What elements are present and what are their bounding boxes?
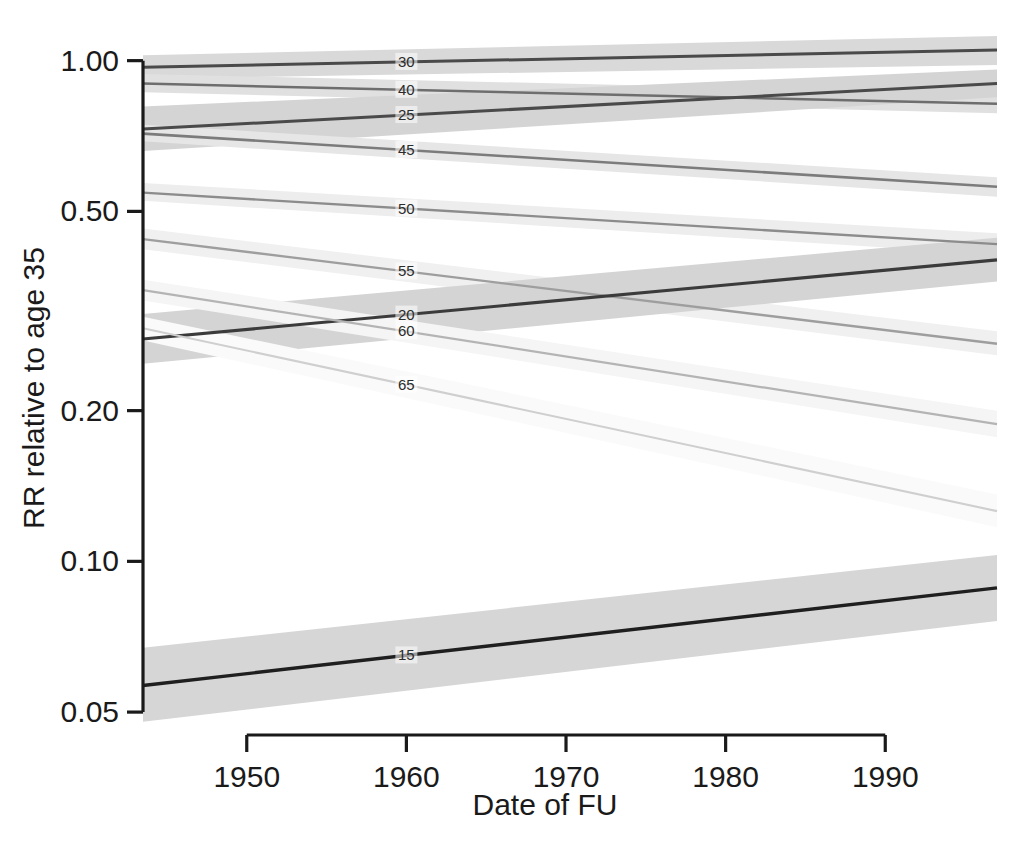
series-label-age-20: 20 xyxy=(398,306,415,323)
series-label-age-55: 55 xyxy=(398,262,415,279)
y-tick-label: 0.05 xyxy=(61,695,119,728)
x-tick-label: 1990 xyxy=(852,760,919,793)
series-label-age-65: 65 xyxy=(398,376,415,393)
figure-container: 1.000.500.200.100.05 1950196019701980199… xyxy=(0,0,1020,856)
trend-line-age-45 xyxy=(143,134,997,187)
x-tick-label: 1980 xyxy=(692,760,759,793)
y-tick-label: 0.20 xyxy=(61,394,119,427)
y-tick-label: 0.50 xyxy=(61,194,119,227)
series-label-age-15: 15 xyxy=(398,646,415,663)
y-axis-ticks-group: 1.000.500.200.100.05 xyxy=(61,44,143,728)
y-tick-label: 1.00 xyxy=(61,44,119,77)
y-tick-label: 0.10 xyxy=(61,544,119,577)
x-tick-label: 1960 xyxy=(373,760,440,793)
x-axis-title: Date of FU xyxy=(472,788,617,821)
chart-canvas: 1.000.500.200.100.05 1950196019701980199… xyxy=(0,0,1020,856)
series-label-age-30: 30 xyxy=(398,53,415,70)
confidence-bands-group xyxy=(143,36,997,722)
series-inline-labels-group: 30402545505520606515 xyxy=(395,53,417,663)
series-label-age-50: 50 xyxy=(398,200,415,217)
x-tick-label: 1950 xyxy=(213,760,280,793)
x-axis-ticks-group: 19501960197019801990 xyxy=(213,735,918,793)
series-label-age-60: 60 xyxy=(398,322,415,339)
series-label-age-45: 45 xyxy=(398,141,415,158)
series-label-age-25: 25 xyxy=(398,106,415,123)
series-label-age-40: 40 xyxy=(398,81,415,98)
y-axis-title: RR relative to age 35 xyxy=(17,247,50,529)
trend-line-age-50 xyxy=(143,193,997,245)
